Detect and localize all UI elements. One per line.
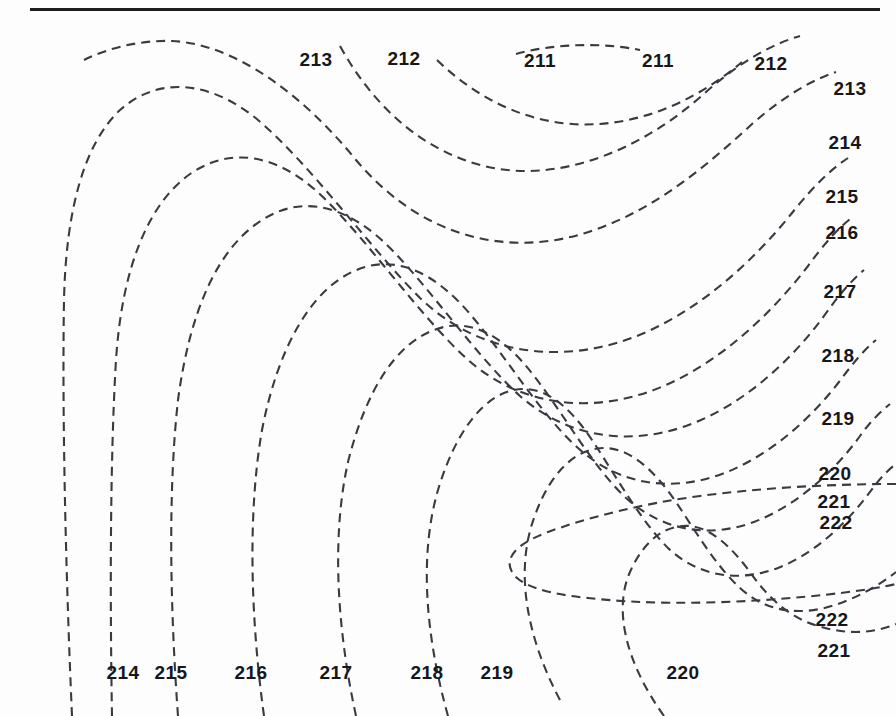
contour-label: 222	[815, 610, 848, 629]
contour-map-figure: 2132122112112122132142152162172182192202…	[0, 0, 896, 716]
contour-label: 218	[410, 663, 443, 682]
contour-label: 220	[666, 663, 699, 682]
contour-label: 213	[299, 50, 332, 69]
contour-216	[171, 206, 864, 716]
contour-label: 221	[817, 641, 850, 660]
contour-label: 219	[480, 663, 513, 682]
contour-label: 215	[825, 187, 858, 206]
contour-label: 222	[819, 513, 852, 532]
contour-label: 215	[154, 663, 187, 682]
contour-label: 219	[821, 409, 854, 428]
contour-label: 211	[642, 51, 674, 70]
contour-label: 211	[524, 51, 556, 70]
contour-211-main	[437, 60, 742, 124]
contour-label: 220	[818, 464, 851, 483]
contour-218	[338, 326, 890, 716]
contour-label: 217	[823, 282, 856, 301]
contour-213	[84, 41, 836, 243]
contour-label: 216	[234, 663, 267, 682]
contour-214	[63, 87, 848, 716]
contour-label: 216	[825, 223, 858, 242]
contour-label: 212	[387, 49, 420, 68]
contour-217	[252, 264, 876, 716]
contour-215	[111, 157, 854, 716]
contour-220	[525, 448, 896, 700]
contour-label: 217	[319, 663, 352, 682]
contour-label: 221	[817, 492, 850, 511]
contour-lines-layer	[0, 0, 896, 716]
contour-label: 214	[828, 133, 861, 152]
contour-label: 213	[833, 79, 866, 98]
contour-label: 218	[821, 346, 854, 365]
contour-label: 214	[106, 663, 139, 682]
contour-group	[63, 36, 896, 716]
contour-221	[623, 526, 896, 716]
contour-label: 212	[754, 54, 787, 73]
